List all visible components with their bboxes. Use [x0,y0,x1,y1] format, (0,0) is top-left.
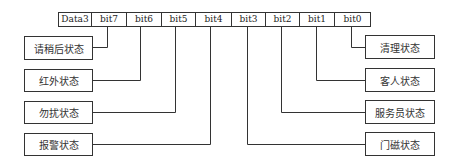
connector-bit0 [352,26,366,48]
register-row: Data3 bit7 bit6 bit5 bit4 bit3 bit2 bit1… [58,12,371,27]
register-cell-bit4: bit4 [196,13,232,26]
register-cell-bit2: bit2 [266,13,300,26]
register-cell-data3: Data3 [59,13,92,26]
register-cell-bit7: bit7 [92,13,127,26]
register-cell-bit5: bit5 [162,13,196,26]
connector-bit1 [317,26,366,81]
connector-bit4 [92,26,211,145]
label-box-cleaning: 清理状态 [365,35,435,59]
connector-bit2 [282,26,366,113]
label-box-attendant: 服务员状态 [365,100,435,124]
connector-bit6 [92,26,141,81]
label-box-infrared: 红外状态 [24,69,93,92]
register-cell-bit0: bit0 [335,13,370,26]
connector-bit5 [92,26,176,113]
register-cell-bit3: bit3 [232,13,266,26]
label-box-alarm: 报警状态 [24,133,93,156]
register-cell-bit6: bit6 [127,13,162,26]
label-box-do-not-disturb: 勿扰状态 [24,101,93,124]
connector-bit3 [248,26,366,145]
connector-bit7 [92,26,108,48]
label-box-please-wait: 请稍后状态 [24,36,93,60]
label-box-guest: 客人状态 [365,68,435,92]
register-cell-bit1: bit1 [300,13,335,26]
label-box-door-sensor: 门磁状态 [365,132,435,156]
